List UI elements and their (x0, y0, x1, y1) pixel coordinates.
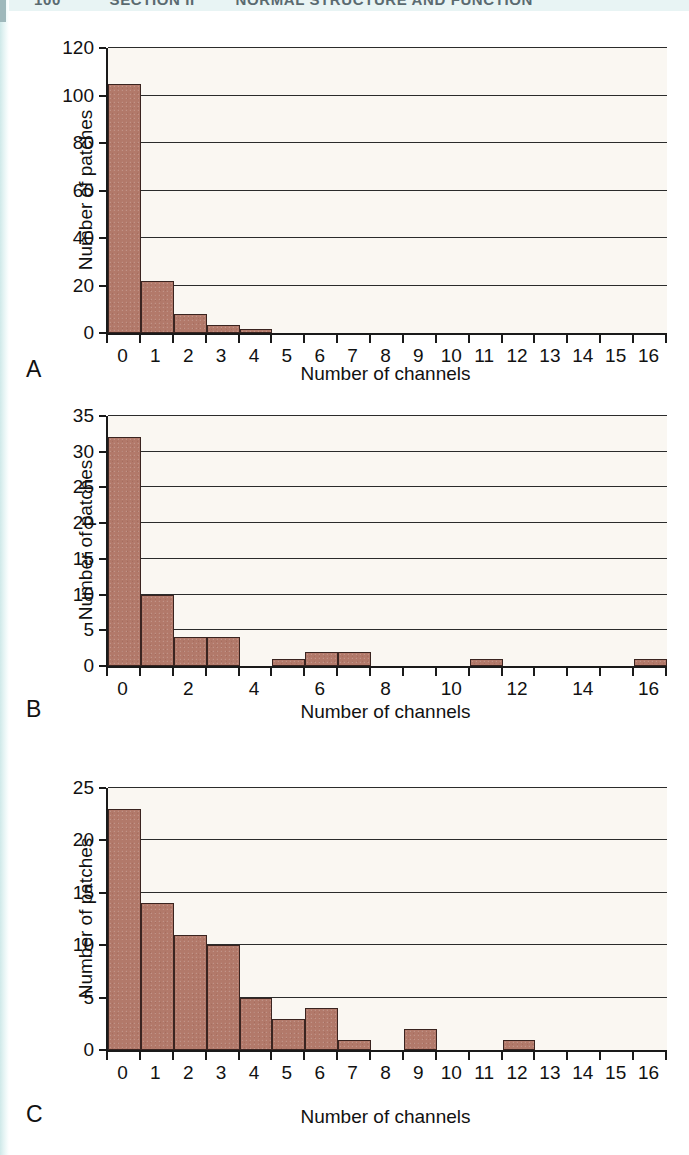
x-axis-tick-mark (106, 668, 108, 676)
y-axis-tick-mark (99, 522, 106, 524)
y-axis-tick-label: 80 (40, 133, 94, 152)
y-axis-tick-label: 25 (40, 778, 94, 797)
y-axis-tick-mark (99, 285, 106, 287)
x-axis-tick-mark (468, 1052, 470, 1060)
x-axis-tick-mark (665, 1052, 667, 1060)
gridline (108, 892, 667, 893)
x-axis-tick-mark (303, 335, 305, 343)
gridline (108, 190, 667, 191)
x-axis-tick-label: 14 (546, 679, 619, 698)
y-axis-title-text: Number of patches (75, 838, 97, 999)
bar (108, 809, 141, 1050)
x-axis-tick-mark (270, 1052, 272, 1060)
bar (338, 1040, 371, 1050)
x-axis-tick-mark (632, 1052, 634, 1060)
x-axis-tick-mark (501, 668, 503, 676)
bar (207, 325, 240, 333)
y-axis-tick-label: 35 (40, 406, 94, 425)
x-axis-tick-mark (238, 668, 240, 676)
x-axis-tick-mark (270, 335, 272, 343)
gridline (108, 142, 667, 143)
x-axis-tick-mark (599, 335, 601, 343)
y-axis-tick-label: 40 (40, 228, 94, 247)
x-axis-tick-mark (106, 1052, 108, 1060)
gridline (108, 787, 667, 788)
x-axis-tick-mark (336, 668, 338, 676)
x-axis-tick-mark (435, 335, 437, 343)
x-axis-tick-mark (139, 335, 141, 343)
gridline (108, 558, 667, 559)
bar (404, 1029, 437, 1050)
y-axis-tick-label: 30 (40, 442, 94, 461)
x-axis-tick-mark (205, 668, 207, 676)
x-axis-tick-mark (501, 335, 503, 343)
y-axis-tick-mark (99, 190, 106, 192)
y-axis-tick-label: 20 (40, 276, 94, 295)
y-axis-tick-mark (99, 486, 106, 488)
y-axis-tick-label: 5 (40, 620, 94, 639)
bar (174, 935, 207, 1050)
y-axis-tick-label: 120 (40, 38, 94, 57)
bar (305, 652, 338, 666)
y-axis-tick-mark (99, 415, 106, 417)
x-axis-tick-mark (336, 1052, 338, 1060)
y-axis-tick-label: 5 (40, 988, 94, 1007)
x-axis-tick-label: 8 (349, 679, 422, 698)
y-axis-tick-mark (99, 142, 106, 144)
bar (174, 637, 207, 666)
bar (207, 637, 240, 666)
y-axis-tick-mark (99, 787, 106, 789)
x-axis-tick-mark (172, 335, 174, 343)
y-axis-tick-mark (99, 1049, 106, 1051)
bar (141, 595, 174, 666)
y-axis-tick-label: 20 (40, 513, 94, 532)
gridline (108, 486, 667, 487)
x-axis-tick-mark (435, 1052, 437, 1060)
bar (141, 281, 174, 333)
page-running-header: 100 SECTION II NORMAL STRUCTURE AND FUNC… (0, 0, 689, 11)
x-axis-tick-mark (270, 668, 272, 676)
y-axis-tick-label: 60 (40, 181, 94, 200)
y-axis-tick-mark (99, 95, 106, 97)
x-axis-tick-mark (566, 335, 568, 343)
x-axis-tick-mark (566, 668, 568, 676)
x-axis-tick-mark (566, 1052, 568, 1060)
y-axis-tick-mark (99, 47, 106, 49)
x-axis-tick-mark (402, 1052, 404, 1060)
y-axis-title: Number of patches (6, 907, 36, 929)
x-axis-tick-mark (369, 1052, 371, 1060)
x-axis-tick-mark (303, 1052, 305, 1060)
x-axis-tick-mark (501, 1052, 503, 1060)
y-axis-title: Number of patches (6, 529, 36, 551)
y-axis-tick-mark (99, 997, 106, 999)
gridline (108, 629, 667, 630)
x-axis-tick-mark (238, 335, 240, 343)
y-axis-tick-mark (99, 558, 106, 560)
x-axis-tick-mark (369, 335, 371, 343)
x-axis-tick-mark (369, 668, 371, 676)
gridline (108, 415, 667, 416)
bar (272, 1019, 305, 1050)
x-axis-tick-mark (468, 668, 470, 676)
x-axis-tick-mark (665, 335, 667, 343)
gridline (108, 285, 667, 286)
y-axis-tick-label: 15 (40, 883, 94, 902)
chart-panel-c: Number of patches05101520250123456789101… (0, 758, 689, 1155)
bar (305, 1008, 338, 1050)
x-axis-tick-mark (205, 335, 207, 343)
gridline (108, 522, 667, 523)
gridline (108, 839, 667, 840)
bar (338, 652, 371, 666)
bar (108, 84, 141, 333)
y-axis-tick-label: 0 (40, 656, 94, 675)
y-axis-tick-mark (99, 892, 106, 894)
y-axis-tick-mark (99, 237, 106, 239)
x-axis-tick-label: 12 (481, 679, 554, 698)
x-axis-tick-mark (599, 1052, 601, 1060)
x-axis-tick-mark (303, 668, 305, 676)
gridline (108, 451, 667, 452)
bar (240, 329, 273, 333)
y-axis-tick-mark (99, 594, 106, 596)
x-axis-tick-mark (106, 335, 108, 343)
panel-letter: B (26, 698, 41, 721)
